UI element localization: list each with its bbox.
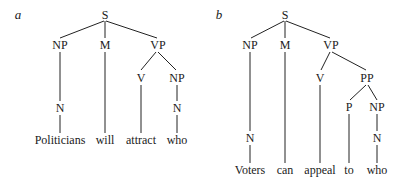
word: attract: [126, 134, 156, 146]
word: Politicians: [35, 134, 86, 146]
panel-label-b: b: [216, 7, 223, 23]
node-np: NP: [242, 39, 257, 51]
node-pp: PP: [360, 72, 373, 84]
node-n-object: N: [173, 102, 182, 114]
node-vp: VP: [150, 39, 165, 51]
node-n-subject: N: [56, 102, 65, 114]
node-np-object: NP: [169, 72, 184, 84]
node-n-subject: N: [246, 132, 255, 144]
node-s: S: [102, 9, 109, 21]
node-v: V: [316, 72, 325, 84]
node-v: V: [137, 72, 146, 84]
word: can: [277, 164, 294, 176]
node-np-object: NP: [369, 101, 384, 113]
node-n-object: N: [373, 132, 382, 144]
word: to: [344, 164, 353, 176]
node-m: M: [280, 39, 291, 51]
word: who: [167, 134, 188, 146]
node-vp: VP: [323, 39, 338, 51]
tree-edges: [0, 0, 400, 182]
word: who: [367, 164, 388, 176]
node-p: P: [346, 101, 353, 113]
node-np: NP: [52, 39, 67, 51]
word: will: [96, 134, 115, 146]
word: appeal: [304, 164, 335, 176]
node-m: M: [100, 39, 111, 51]
word: Voters: [235, 164, 265, 176]
panel-label-a: a: [15, 7, 22, 23]
node-s: S: [282, 9, 289, 21]
